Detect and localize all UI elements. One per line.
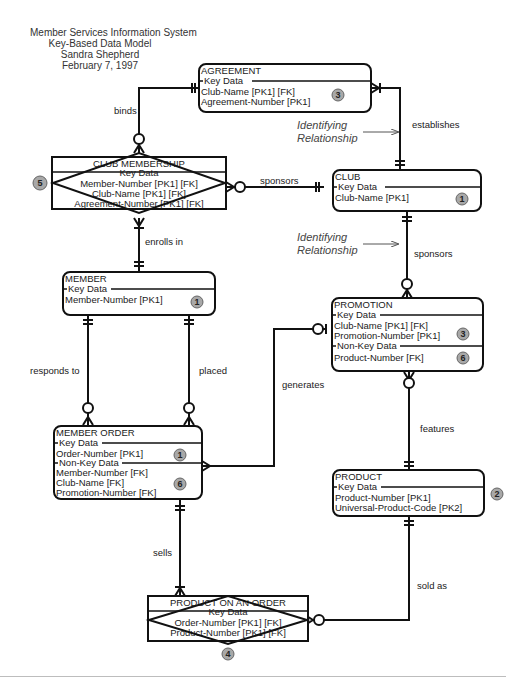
svg-text:Key Data: Key Data xyxy=(68,283,108,294)
svg-text:Promotion-Number [FK]: Promotion-Number [FK] xyxy=(56,487,156,498)
label-placed: placed xyxy=(199,365,227,376)
label-enrolls-in: enrolls in xyxy=(145,236,183,247)
svg-text:Key Data: Key Data xyxy=(59,437,99,448)
svg-text:6: 6 xyxy=(460,353,465,363)
generates-line xyxy=(202,329,326,466)
entity-member[interactable]: MEMBER Key Data Member-Number [PK1] 1 xyxy=(63,272,215,315)
svg-text:Club-Name [PK1]: Club-Name [PK1] xyxy=(335,192,409,203)
svg-text:Product-Number [FK]: Product-Number [FK] xyxy=(334,352,424,363)
svg-text:5: 5 xyxy=(37,178,42,188)
section-label: Key Data xyxy=(204,75,244,86)
svg-text:Relationship: Relationship xyxy=(297,132,358,144)
sold-as-line xyxy=(313,517,409,620)
svg-text:Member-Number [PK1]: Member-Number [PK1] xyxy=(65,294,163,305)
label-responds-to: responds to xyxy=(30,365,80,376)
svg-text:Key Data: Key Data xyxy=(337,309,377,320)
svg-text:Agreement-Number [PK1]: Agreement-Number [PK1] xyxy=(201,96,310,107)
entity-member-order[interactable]: MEMBER ORDER Key Data Order-Number [PK1]… xyxy=(54,426,202,499)
label-sponsors-membership: sponsors xyxy=(260,175,299,186)
zero-circle-icon xyxy=(134,134,144,144)
svg-text:Key Data: Key Data xyxy=(119,167,159,178)
entity-product-on-an-order[interactable]: PRODUCT ON AN ORDER Key Data Order-Numbe… xyxy=(148,596,308,660)
svg-text:6: 6 xyxy=(177,479,182,489)
svg-text:Identifying: Identifying xyxy=(297,231,348,243)
label-binds: binds xyxy=(114,105,137,116)
label-sponsors-promotion: sponsors xyxy=(414,248,453,259)
svg-text:3: 3 xyxy=(335,90,340,100)
identifying-annotation-2: Identifying Relationship xyxy=(297,231,398,256)
entity-club-membership[interactable]: CLUB MEMBERSHIP Key Data Member-Number [… xyxy=(33,153,226,213)
label-features: features xyxy=(420,423,455,434)
entity-agreement[interactable]: AGREEMENT Key Data Club-Name [PK1] [FK] … xyxy=(199,64,371,112)
svg-text:Key Data: Key Data xyxy=(208,606,248,617)
svg-text:Key Data: Key Data xyxy=(338,481,378,492)
entity-club[interactable]: CLUB Key Data Club-Name [PK1] 1 xyxy=(333,170,481,211)
entity-product[interactable]: PRODUCT Key Data Product-Number [PK1] Un… xyxy=(333,470,503,516)
svg-text:Non-Key Data: Non-Key Data xyxy=(337,340,397,351)
svg-text:Relationship: Relationship xyxy=(297,244,358,256)
svg-text:Agreement-Number [PK1] [FK]: Agreement-Number [PK1] [FK] xyxy=(74,198,203,209)
svg-text:4: 4 xyxy=(225,649,230,659)
svg-text:3: 3 xyxy=(460,329,465,339)
svg-text:2: 2 xyxy=(494,489,499,499)
page-divider xyxy=(0,676,506,677)
svg-text:Key Data: Key Data xyxy=(338,181,378,192)
label-generates: generates xyxy=(282,379,325,390)
svg-text:1: 1 xyxy=(194,297,199,307)
svg-text:Universal-Product-Code [PK2]: Universal-Product-Code [PK2] xyxy=(335,502,462,513)
label-sells: sells xyxy=(153,547,172,558)
label-sold-as: sold as xyxy=(417,580,447,591)
svg-text:Identifying: Identifying xyxy=(297,119,348,131)
svg-text:1: 1 xyxy=(459,194,464,204)
identifying-annotation-1: Identifying Relationship xyxy=(297,119,398,144)
svg-text:1: 1 xyxy=(177,450,182,460)
binds-line xyxy=(139,88,199,153)
entity-promotion[interactable]: PROMOTION Key Data Club-Name [PK1] [FK] … xyxy=(332,298,483,371)
label-establishes: establishes xyxy=(412,119,460,130)
er-diagram: binds establishes sponsors enrolls in sp… xyxy=(0,0,524,692)
